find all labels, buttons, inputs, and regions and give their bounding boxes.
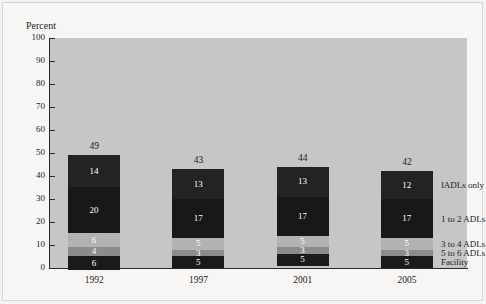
y-tick-label: 10 (0, 240, 45, 249)
y-tick-mark (50, 222, 55, 223)
y-axis-title: Percent (26, 20, 56, 31)
bar-group[interactable]: 1317535 (277, 167, 329, 268)
y-tick-label: 0 (0, 263, 45, 272)
bar-segment[interactable]: 3 (277, 247, 329, 254)
y-tick-mark (50, 153, 55, 154)
bar-segment-value: 17 (194, 214, 203, 223)
y-tick-label: 20 (0, 217, 45, 226)
y-tick-mark (50, 130, 55, 131)
stacked-bar[interactable]: 1317535 (172, 169, 224, 268)
bar-total-label: 44 (277, 153, 329, 163)
bar-segment-value: 5 (196, 239, 201, 248)
legend-entry-facility: Facility (441, 258, 469, 267)
y-tick-mark (50, 268, 55, 269)
y-tick-label: 90 (0, 56, 45, 65)
bar-segment-value: 5 (196, 258, 201, 267)
bar-segment-value: 13 (298, 177, 307, 186)
y-tick-label: 60 (0, 125, 45, 134)
y-tick-label: 30 (0, 194, 45, 203)
y-tick-label: 80 (0, 79, 45, 88)
stacked-bar[interactable]: 1317535 (277, 167, 329, 268)
bar-segment-value: 13 (194, 180, 203, 189)
bar-segment[interactable]: 4 (68, 247, 120, 256)
legend-entry-1-to-2-adls: 1 to 2 ADLs (441, 215, 485, 224)
y-tick-mark (50, 107, 55, 108)
y-tick-label: 70 (0, 102, 45, 111)
bar-segment-value: 12 (402, 181, 411, 190)
stacked-bar[interactable]: 1420646 (68, 155, 120, 268)
bar-segment[interactable]: 20 (68, 187, 120, 233)
bar-group[interactable]: 1217535 (381, 171, 433, 268)
y-tick-mark (50, 38, 55, 39)
legend-entry-iadls-only: IADLs only (441, 181, 484, 190)
y-tick-label: 100 (0, 33, 45, 42)
bar-segment-value: 5 (405, 258, 410, 267)
y-tick-mark (50, 199, 55, 200)
stacked-bar[interactable]: 1217535 (381, 171, 433, 268)
y-tick-mark (50, 61, 55, 62)
bar-segment[interactable]: 5 (172, 256, 224, 268)
bar-segment[interactable]: 13 (277, 167, 329, 197)
bar-segment-value: 6 (92, 259, 97, 268)
y-tick-mark (50, 245, 55, 246)
bar-segment[interactable]: 13 (172, 169, 224, 199)
x-tick-label: 1992 (59, 275, 129, 285)
bar-segment-value: 17 (402, 214, 411, 223)
bar-segment-value: 4 (92, 247, 97, 256)
bar-segment[interactable]: 3 (381, 250, 433, 257)
y-tick-label: 40 (0, 171, 45, 180)
bar-group[interactable]: 1420646 (68, 155, 120, 268)
bar-segment-value: 17 (298, 212, 307, 221)
x-tick-label: 2005 (372, 275, 442, 285)
y-tick-mark (50, 84, 55, 85)
bar-segment[interactable]: 5 (277, 254, 329, 266)
bar-group[interactable]: 1317535 (172, 169, 224, 268)
bar-segment[interactable]: 6 (68, 233, 120, 247)
stacked-bar-chart: Percent 0102030405060708090100 199219972… (0, 0, 486, 304)
bar-segment[interactable]: 6 (68, 256, 120, 270)
figure-root: Percent 0102030405060708090100 199219972… (0, 0, 486, 304)
y-tick-label: 50 (0, 148, 45, 157)
bar-segment[interactable]: 12 (381, 171, 433, 199)
bar-segment-value: 5 (405, 239, 410, 248)
x-tick-label: 2001 (268, 275, 338, 285)
bar-segment[interactable]: 17 (277, 197, 329, 236)
bar-segment[interactable]: 14 (68, 155, 120, 187)
legend-entry-3-to-4-adls: 3 to 4 ADLs (441, 240, 485, 249)
bar-segment-value: 14 (89, 167, 98, 176)
bar-segment-value: 20 (89, 206, 98, 215)
legend-entry-5-to-6-adls: 5 to 6 ADLs (441, 249, 485, 258)
bar-segment[interactable]: 17 (172, 199, 224, 238)
bar-segment[interactable]: 3 (172, 250, 224, 257)
bar-total-label: 49 (68, 141, 120, 151)
y-tick-mark (50, 176, 55, 177)
x-tick-label: 1997 (163, 275, 233, 285)
bar-segment-value: 5 (300, 255, 305, 264)
bar-total-label: 42 (381, 157, 433, 167)
bar-total-label: 43 (172, 155, 224, 165)
bar-segment[interactable]: 5 (381, 256, 433, 268)
bar-segment[interactable]: 17 (381, 199, 433, 238)
bar-segment-value: 6 (92, 236, 97, 245)
